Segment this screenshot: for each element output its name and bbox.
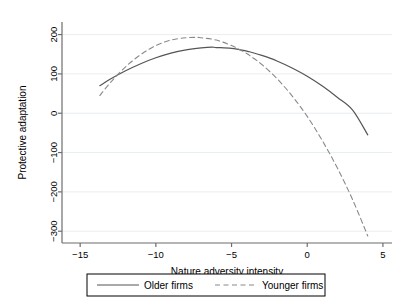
data-series: [100, 37, 368, 236]
quadratic-fit-plot: 2001000−100−200−300 −15−10−505 Protectiv…: [0, 0, 412, 307]
y-tick-label: −200: [49, 181, 60, 202]
y-tick-label: 100: [49, 66, 60, 82]
x-tick-label: −15: [72, 249, 88, 260]
x-tick-labels: −15−10−505: [72, 249, 385, 260]
y-axis: [58, 22, 62, 243]
legend-label-younger-firms: Younger firms: [262, 280, 323, 291]
x-axis: [62, 243, 392, 247]
x-tick-label: −10: [148, 249, 164, 260]
x-tick-label: 5: [380, 249, 385, 260]
y-tick-label: 200: [49, 27, 60, 43]
y-tick-labels: 2001000−100−200−300: [49, 27, 60, 242]
gridlines: [62, 35, 392, 232]
legend-label-older-firms: Older firms: [144, 280, 193, 291]
x-tick-label: −5: [226, 249, 237, 260]
chart-figure: 2001000−100−200−300 −15−10−505 Protectiv…: [0, 0, 412, 307]
x-tick-label: 0: [305, 249, 310, 260]
y-tick-label: −100: [49, 142, 60, 163]
y-tick-label: 0: [49, 111, 60, 116]
series-line-younger-firms: [100, 37, 368, 236]
y-tick-label: −300: [49, 220, 60, 241]
series-line-older-firms: [100, 47, 368, 135]
y-axis-title: Protective adaptation: [17, 86, 28, 180]
legend: Older firmsYounger firms: [87, 274, 325, 296]
